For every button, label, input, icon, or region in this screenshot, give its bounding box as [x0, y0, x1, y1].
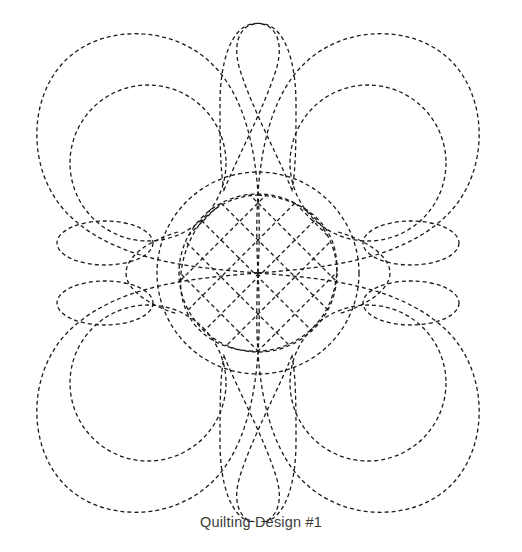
background-circle-bottom-right — [290, 305, 446, 461]
edge-teardrop-bottom-group — [220, 356, 296, 522]
corner-petal-group — [37, 34, 479, 513]
background-circle-bottom-left — [70, 305, 226, 461]
inner-lobe-right — [338, 232, 390, 314]
side-ellipse-left-lower — [57, 281, 153, 325]
background-circle-top-right — [290, 85, 446, 241]
lattice-line-a — [147, 351, 225, 429]
lattice-line-b — [147, 129, 221, 203]
side-ellipse-right-lower — [363, 281, 459, 325]
side-ellipse-right-upper — [363, 221, 459, 265]
figure-page: Quilting Design #1 — [0, 0, 522, 552]
edge-teardrop-top-right — [220, 23, 279, 190]
quilting-design-illustration — [0, 0, 522, 522]
lattice-line-b — [147, 129, 369, 351]
edge-teardrop-bottom-right — [220, 356, 279, 522]
side-ellipse-left-group — [57, 221, 153, 325]
lattice-line-b — [291, 351, 369, 429]
figure-caption: Quilting Design #1 — [0, 514, 522, 530]
edge-teardrop-top-group — [220, 23, 296, 190]
lattice-line-a — [295, 129, 369, 203]
design-strokes — [37, 23, 479, 522]
inner-lobe-left — [126, 232, 178, 314]
edge-teardrop-bottom-left — [237, 356, 296, 522]
lattice-line-b — [147, 203, 369, 425]
lattice-line-b — [217, 277, 369, 429]
edge-teardrop-top-left — [237, 23, 296, 190]
side-ellipse-right-group — [363, 221, 459, 325]
background-circle-top-left — [70, 85, 226, 241]
